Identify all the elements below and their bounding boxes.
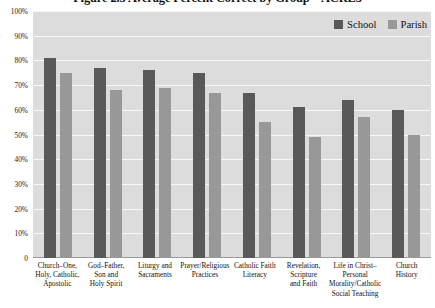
x-axis-category-label: Revelation,Scriptureand Faith [279,261,328,298]
y-axis-tick: 20% [14,204,28,213]
bar-school[interactable] [243,93,255,258]
chart-legend: SchoolParish [334,19,427,30]
bar-parish[interactable] [408,135,420,259]
x-axis-category-label: Prayer/ReligiousPractices [179,261,230,298]
chart-container: Figure 2.3 Average Percent Correct by Gr… [0,0,435,308]
bar-parish[interactable] [60,73,72,258]
bar-school[interactable] [94,68,106,258]
bar-group [83,11,133,258]
bar-school[interactable] [293,107,305,258]
legend-swatch-icon [334,20,343,29]
x-axis-category-label: God–Father,Son andHoly Spirit [82,261,131,298]
bar-parish[interactable] [358,117,370,258]
bar-parish[interactable] [209,93,221,258]
bar-school[interactable] [44,58,56,258]
x-axis-labels: Church–One,Holy, Catholic,ApostolicGod–F… [33,261,431,298]
y-axis-tick: 100% [11,7,28,16]
bar-group [381,11,431,258]
y-axis-tick: 50% [14,130,28,139]
bar-group [133,11,183,258]
y-axis-tick: 70% [14,81,28,90]
bar-parish[interactable] [309,137,321,258]
y-axis-tick: 10% [14,229,28,238]
x-axis-category-label: Life in Christ–PersonalMorality/Catholic… [328,261,382,298]
x-axis-category-label: Church–One,Holy, Catholic,Apostolic [33,261,82,298]
legend-label: School [347,19,376,30]
bar-parish[interactable] [159,88,171,258]
bar-group [33,11,83,258]
y-axis-tick: 60% [14,105,28,114]
x-axis-category-label: Catholic FaithLiteracy [230,261,279,298]
bar-groups [33,11,431,258]
bar-school[interactable] [392,110,404,258]
bar-parish[interactable] [259,122,271,258]
legend-item-school[interactable]: School [334,19,376,30]
y-axis-tick: 0 [24,254,28,263]
legend-item-parish[interactable]: Parish [388,19,427,30]
bar-group [332,11,382,258]
x-axis-category-label: Liturgy andSacraments [131,261,180,298]
y-axis-tick: 40% [14,155,28,164]
bar-school[interactable] [193,73,205,258]
legend-swatch-icon [388,20,397,29]
x-axis-category-label: ChurchHistory [382,261,431,298]
bar-school[interactable] [143,70,155,258]
bar-school[interactable] [342,100,354,258]
y-axis-tick: 30% [14,179,28,188]
bar-parish[interactable] [110,90,122,258]
legend-label: Parish [401,19,427,30]
chart-title: Figure 2.3 Average Percent Correct by Gr… [0,0,435,6]
bar-group [232,11,282,258]
y-axis: 100%90%80%70%60%50%40%30%20%10%0 [0,11,31,258]
y-axis-tick: 90% [14,31,28,40]
bar-group [182,11,232,258]
y-axis-tick: 80% [14,56,28,65]
bar-group [282,11,332,258]
